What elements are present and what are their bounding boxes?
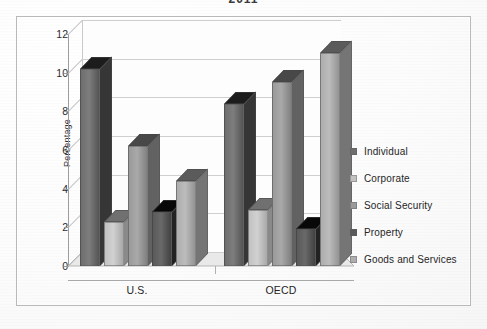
bar-face	[296, 229, 316, 266]
bar-face	[176, 181, 196, 266]
x-category-label-OECD: OECD	[265, 284, 296, 296]
bar-US-social-security	[128, 146, 148, 266]
legend-swatch-icon	[350, 256, 357, 263]
legend-item-label: Property	[364, 227, 403, 238]
chart-plot-area: Percentage 024681012 U.S.OECD Individual…	[20, 20, 470, 310]
bar-US-goods-and-services	[176, 181, 196, 266]
chart-title-clipped: 2011	[0, 0, 487, 7]
axis-riser-12	[68, 20, 83, 35]
gridline-12	[82, 20, 340, 21]
chart-title: 2011	[0, 0, 487, 6]
x-category-separator	[215, 266, 216, 274]
legend-item-label: Individual	[364, 146, 408, 157]
legend-swatch-icon	[350, 202, 357, 209]
bar-face	[320, 53, 340, 266]
bar-OECD-individual	[224, 104, 244, 266]
legend-swatch-icon	[350, 175, 357, 182]
legend-item-goods-and-services[interactable]: Goods and Services	[350, 246, 487, 273]
y-axis-tick-labels: 024681012	[42, 20, 68, 270]
legend-item-corporate[interactable]: Corporate	[350, 165, 487, 192]
bar-OECD-social-security	[272, 82, 292, 266]
bar-face	[80, 69, 100, 266]
legend-item-property[interactable]: Property	[350, 219, 487, 246]
chart-legend: IndividualCorporateSocial SecurityProper…	[350, 138, 487, 273]
bar-face	[272, 82, 292, 266]
bar-OECD-goods-and-services	[320, 53, 340, 266]
bar-face	[128, 146, 148, 266]
gridline-10	[82, 59, 340, 60]
legend-item-label: Goods and Services	[364, 254, 457, 265]
bar-face	[152, 212, 172, 266]
bar-face	[104, 222, 124, 266]
bar-US-property	[152, 212, 172, 266]
bar-face	[248, 210, 268, 266]
bar-face	[224, 104, 244, 266]
legend-item-social-security[interactable]: Social Security	[350, 192, 487, 219]
bar-side	[196, 168, 208, 265]
legend-swatch-icon	[350, 148, 357, 155]
bar-OECD-property	[296, 229, 316, 266]
legend-item-label: Corporate	[364, 173, 410, 184]
bar-OECD-corporate	[248, 210, 268, 266]
x-category-label-US: U.S.	[126, 284, 147, 296]
bar-US-individual	[80, 69, 100, 266]
x-axis-line	[68, 280, 354, 281]
legend-swatch-icon	[350, 229, 357, 236]
chart-3d-body: U.S.OECD	[68, 20, 368, 282]
bar-US-corporate	[104, 222, 124, 266]
legend-item-label: Social Security	[364, 200, 432, 211]
legend-item-individual[interactable]: Individual	[350, 138, 487, 165]
